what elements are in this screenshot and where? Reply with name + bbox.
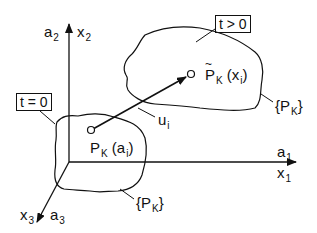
point-pk-reference bbox=[88, 127, 95, 134]
point-pk-current bbox=[188, 71, 195, 78]
label-x1: x1 bbox=[277, 165, 291, 180]
deformation-diagram: a2 x2 a1 x1 x3 a3 t = 0 t > 0 PK (ai) PK… bbox=[0, 0, 317, 233]
label-x2: x2 bbox=[77, 24, 91, 39]
time-label-current: t > 0 bbox=[215, 15, 251, 33]
label-body-current: {PK} bbox=[275, 98, 303, 113]
leader-body-cur bbox=[261, 94, 273, 102]
label-a2: a2 bbox=[44, 24, 59, 39]
label-displacement: ui bbox=[158, 112, 170, 127]
time-label-reference: t = 0 bbox=[16, 93, 52, 111]
leader-t0 bbox=[40, 111, 55, 124]
displacement-vector bbox=[93, 77, 186, 129]
label-pk-current: PK (xi) bbox=[205, 67, 248, 82]
label-a1: a1 bbox=[277, 144, 292, 159]
label-a3: a3 bbox=[50, 207, 65, 222]
leader-tpos bbox=[196, 29, 215, 42]
label-pk-reference: PK (ai) bbox=[90, 140, 133, 155]
label-x3: x3 bbox=[20, 207, 34, 222]
leader-body-ref bbox=[120, 189, 134, 199]
leader-ui bbox=[138, 108, 155, 117]
label-body-reference: {PK} bbox=[136, 195, 164, 210]
